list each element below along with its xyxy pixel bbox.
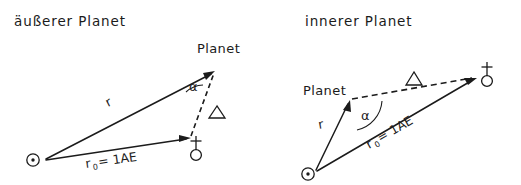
- astronomy-elongation-diagram: äußerer Planet r r 0 = 1AE α Planet: [0, 0, 521, 185]
- label-planet-inner: Planet: [303, 83, 346, 98]
- panel-title-inner: innerer Planet: [305, 13, 413, 29]
- label-planet-outer: Planet: [197, 41, 240, 56]
- label-alpha-inner: α: [361, 108, 370, 123]
- label-alpha-outer: α: [189, 79, 198, 94]
- panel-title-outer: äußerer Planet: [14, 13, 126, 29]
